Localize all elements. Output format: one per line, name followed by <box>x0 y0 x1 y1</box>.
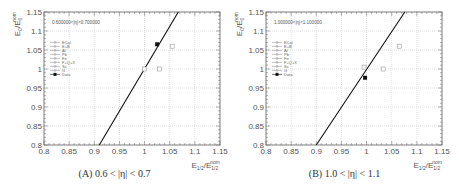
chart-panel-a: 0.80.850.90.9511.051.11.150.80.850.90.95… <box>0 0 229 194</box>
y-axis-label: E0/E0nom <box>11 12 23 36</box>
open-point <box>362 65 366 69</box>
legend: ECalE+BAlPbFeF+Q+XScGData <box>272 40 297 77</box>
x-tick-label: 0.95 <box>334 147 350 156</box>
y-tick-label: 0.95 <box>26 84 42 93</box>
eta-range-annotation: 0.600000<|η|<0.700000 <box>52 20 100 25</box>
x-tick-label: 1.1 <box>411 147 423 156</box>
x-tick-label: 1.05 <box>162 147 178 156</box>
scatter-plot-b: 0.80.850.90.9511.051.11.150.80.850.90.95… <box>230 0 459 194</box>
caption-a: (A) 0.6 < |η| < 0.7 <box>0 168 229 179</box>
scatter-plot-a: 0.80.850.90.9511.051.11.150.80.850.90.95… <box>0 0 229 194</box>
axis-ticks <box>266 12 442 145</box>
axis-ticks <box>44 12 220 145</box>
x-tick-label: 0.85 <box>283 147 299 156</box>
grid <box>44 12 220 145</box>
legend: ECalE+BAlPbFeF+Q+XScGData <box>50 40 75 77</box>
y-tick-label: 1 <box>38 65 43 74</box>
plot-frame <box>44 12 220 145</box>
x-tick-label: 1.05 <box>384 147 400 156</box>
open-point <box>381 67 385 71</box>
chart-panel-b: 0.80.850.90.9511.051.11.150.80.850.90.95… <box>230 0 459 194</box>
eta-range-annotation: 1.000000<|η|<1.100000 <box>274 20 322 25</box>
y-tick-label: 1.1 <box>31 27 43 36</box>
y-tick-label: 1.05 <box>248 46 264 55</box>
y-tick-label: 0.85 <box>26 122 42 131</box>
x-tick-label: 1.1 <box>189 147 201 156</box>
y-tick-label: 1.15 <box>248 8 264 17</box>
x-tick-label: 1 <box>142 147 147 156</box>
x-tick-label: 0.85 <box>61 147 77 156</box>
open-point <box>170 44 174 48</box>
plot-frame <box>266 12 442 145</box>
x-tick-label: 1 <box>364 147 369 156</box>
y-tick-label: 0.9 <box>31 103 43 112</box>
data-point <box>363 76 367 80</box>
y-tick-label: 0.95 <box>248 84 264 93</box>
y-tick-label: 0.85 <box>248 122 264 131</box>
fit-line <box>99 12 178 145</box>
legend-entry: Data <box>62 72 71 77</box>
y-tick-label: 0.8 <box>31 141 43 150</box>
y-tick-label: 1.15 <box>26 8 42 17</box>
x-tick-label: 0.95 <box>112 147 128 156</box>
legend-entry: Data <box>284 72 293 77</box>
open-point <box>158 67 162 71</box>
x-tick-label: 1.15 <box>212 147 228 156</box>
grid <box>266 12 442 145</box>
y-tick-label: 0.8 <box>253 141 265 150</box>
y-tick-label: 1.05 <box>26 46 42 55</box>
y-tick-label: 1.1 <box>253 27 265 36</box>
y-axis-label: E0/E0nom <box>233 12 245 36</box>
x-tick-label: 0.9 <box>311 147 323 156</box>
x-tick-label: 1.15 <box>434 147 450 156</box>
data-point <box>155 42 159 46</box>
open-point <box>143 67 147 71</box>
y-tick-label: 1 <box>260 65 265 74</box>
x-tick-label: 0.9 <box>89 147 101 156</box>
caption-b: (B) 1.0 < |η| < 1.1 <box>230 168 459 179</box>
open-point <box>397 44 401 48</box>
y-tick-label: 0.9 <box>253 103 265 112</box>
